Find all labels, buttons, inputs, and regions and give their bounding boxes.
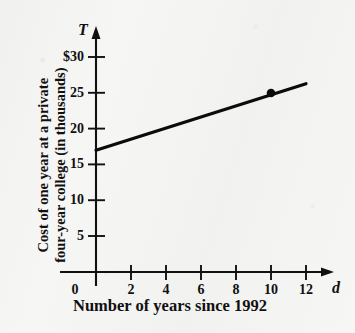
x-tick-label-10: 10 xyxy=(264,283,278,297)
y-axis-title-line-1: Cost of one year at a private xyxy=(35,55,52,275)
y-axis-arrow-icon xyxy=(92,26,101,39)
x-axis-arrow-icon xyxy=(321,268,334,277)
x-tick-label-8: 8 xyxy=(233,283,240,297)
x-tick-label-6: 6 xyxy=(198,283,205,297)
college-cost-line-chart: $30 25 20 15 10 5 0 2 4 6 8 10 12 T d Nu… xyxy=(0,0,355,333)
x-tick-label-0: 0 xyxy=(72,283,79,297)
y-axis-title: Cost of one year at a private four-year … xyxy=(35,55,69,275)
x-axis-title: Number of years since 1992 xyxy=(0,296,340,316)
x-tick-label-12: 12 xyxy=(299,283,313,297)
y-axis-variable-label: T xyxy=(78,22,88,38)
x-tick-label-2: 2 xyxy=(128,283,135,297)
x-tick-label-4: 4 xyxy=(163,283,170,297)
y-axis-title-line-2: four-year college (in thousands) xyxy=(52,55,69,275)
data-point-marker xyxy=(267,89,276,98)
x-axis-variable-label: d xyxy=(332,280,340,296)
